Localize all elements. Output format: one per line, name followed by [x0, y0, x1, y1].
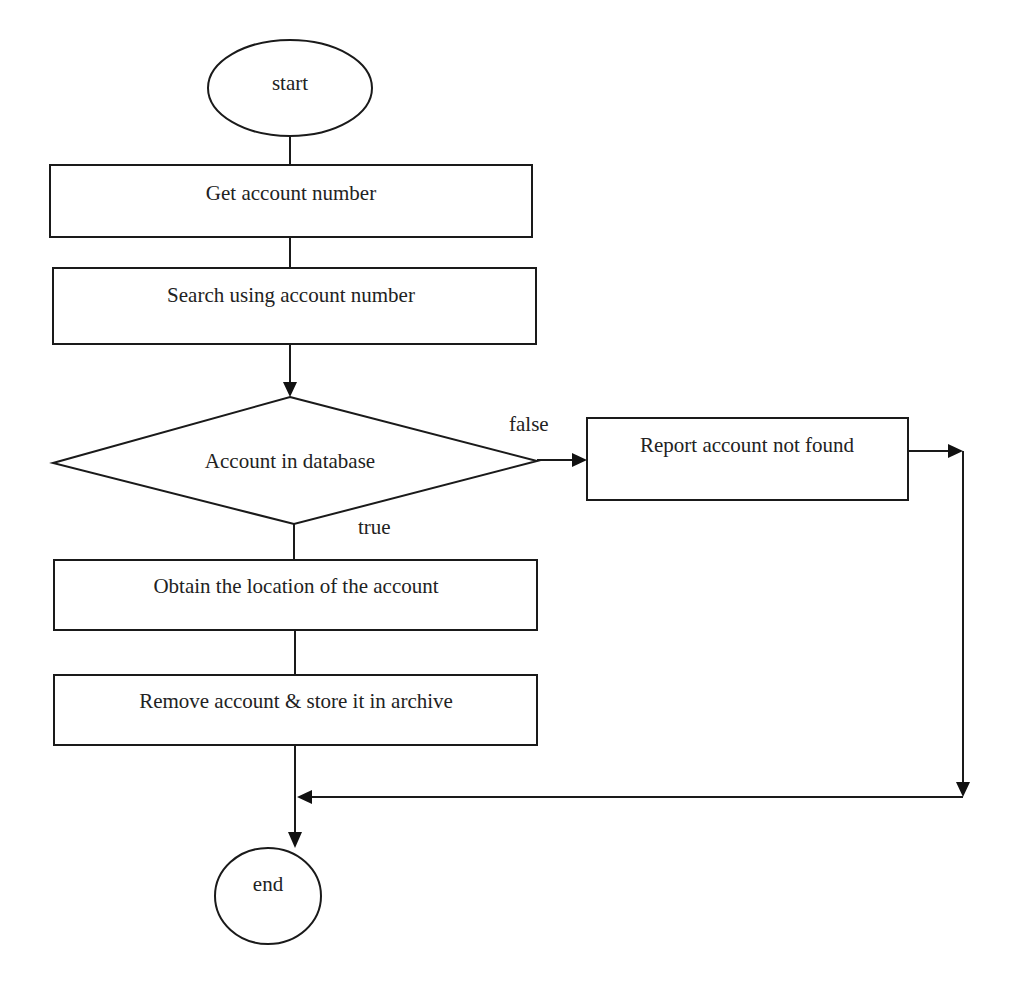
arrow-left-icon	[297, 790, 312, 804]
end-node: end	[215, 848, 321, 944]
remove-archive-node: Remove account & store it in archive	[54, 675, 537, 745]
flowchart: start Get account number Search using ac…	[0, 0, 1018, 990]
start-label: start	[272, 71, 308, 95]
arrow-down-icon	[956, 782, 970, 797]
remove-archive-label: Remove account & store it in archive	[139, 689, 453, 713]
search-node: Search using account number	[53, 268, 536, 344]
false-label: false	[509, 412, 549, 436]
report-not-found-node: Report account not found	[587, 418, 908, 500]
end-label: end	[253, 872, 284, 896]
arrow-down-icon	[283, 382, 297, 397]
arrow-down-icon	[288, 832, 302, 848]
get-account-number-label: Get account number	[206, 181, 376, 205]
decision-label: Account in database	[205, 449, 375, 473]
get-account-number-node: Get account number	[50, 165, 532, 237]
obtain-location-node: Obtain the location of the account	[54, 560, 537, 630]
true-label: true	[358, 515, 391, 539]
start-node: start	[208, 40, 372, 136]
obtain-location-label: Obtain the location of the account	[153, 574, 438, 598]
decision-node: Account in database	[53, 397, 537, 524]
arrow-right-icon	[572, 453, 587, 467]
search-label: Search using account number	[167, 283, 415, 307]
report-not-found-label: Report account not found	[640, 433, 855, 457]
arrow-right-icon	[948, 444, 963, 458]
